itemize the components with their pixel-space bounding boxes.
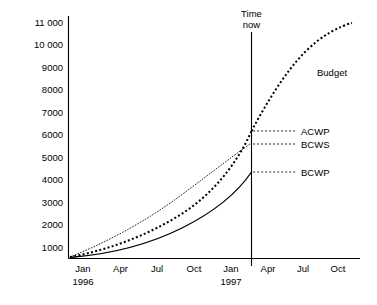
x-axis-year-label: 1996: [72, 276, 93, 287]
y-tick-label: 1000: [42, 242, 63, 253]
y-tick-labels: 11 000 10 000 9000 8000 7000 6000 5000 4…: [34, 17, 63, 253]
y-tick-label: 2000: [42, 219, 63, 230]
x-tick-label: Jan: [223, 263, 238, 274]
y-tick-label: 4000: [42, 174, 63, 185]
chart-canvas: 11 000 10 000 9000 8000 7000 6000 5000 4…: [0, 0, 377, 305]
legend-label-bcwp: BCWP: [301, 167, 330, 178]
x-tick-label: Oct: [331, 263, 346, 274]
y-tick-label: 8000: [42, 84, 63, 95]
x-tick-label: Apr: [261, 263, 276, 274]
y-tick-label: 5000: [42, 152, 63, 163]
budget-curve-label: Budget: [317, 67, 347, 78]
legend-label-acwp: ACWP: [301, 126, 330, 137]
series-line-bcws: [70, 143, 252, 257]
y-tick-label: 9000: [42, 62, 63, 73]
y-tick-label: 7000: [42, 107, 63, 118]
y-tick-label: 6000: [42, 129, 63, 140]
x-tick-label: Jul: [151, 263, 163, 274]
x-tick-labels: Jan Apr Jul Oct Jan Apr Jul Oct: [75, 263, 345, 274]
x-tick-label: Jan: [75, 263, 90, 274]
y-tick-label: 11 000: [35, 17, 63, 28]
y-tick-label: 10 000: [34, 39, 63, 50]
time-now-label-line1: Time: [241, 8, 262, 19]
x-tick-label: Apr: [113, 263, 128, 274]
time-now-label-line2: now: [243, 19, 261, 30]
x-axis-year-label: 1997: [220, 276, 241, 287]
x-axis-year-labels: 1996 1997: [72, 276, 241, 287]
y-tick-label: 3000: [42, 197, 63, 208]
inline-legend: ACWP BCWS BCWP: [253, 126, 330, 178]
x-tick-label: Oct: [187, 263, 202, 274]
evm-s-curve-chart: 11 000 10 000 9000 8000 7000 6000 5000 4…: [0, 0, 377, 305]
legend-label-bcws: BCWS: [301, 139, 330, 150]
x-tick-label: Jul: [297, 263, 309, 274]
